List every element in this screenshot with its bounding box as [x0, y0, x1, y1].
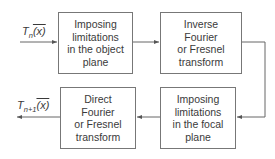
box-text: plane [185, 131, 211, 144]
box-text: or Fresnel [74, 118, 121, 131]
output-label: Tn+1(x) [17, 99, 49, 114]
box-text: Imposing [74, 18, 117, 31]
box-text: in the object [67, 43, 124, 56]
flowchart: Tn(x) Tn+1(x) Imposing limitations in th… [0, 0, 275, 159]
box-text: Direct [84, 93, 111, 106]
box-text: limitations [175, 106, 222, 119]
box-object-plane-limitations: Imposing limitations in the object plane [58, 12, 133, 74]
box-direct-transform: Direct Fourier or Fresnel transform [60, 87, 136, 149]
box-inverse-transform: Inverse Fourier or Fresnel transform [160, 12, 242, 74]
box-text: transform [179, 56, 223, 69]
box-text: Fourier [81, 106, 114, 119]
box-text: transform [76, 131, 120, 144]
box-text: plane [83, 56, 109, 69]
box-text: in the focal [173, 118, 224, 131]
input-label: Tn(x) [22, 25, 46, 40]
box-text: Fourier [184, 31, 217, 44]
box-text: Inverse [184, 18, 218, 31]
box-focal-plane-limitations: Imposing limitations in the focal plane [160, 87, 236, 149]
box-text: Imposing [177, 93, 220, 106]
box-text: or Fresnel [177, 43, 224, 56]
box-text: limitations [72, 31, 119, 44]
